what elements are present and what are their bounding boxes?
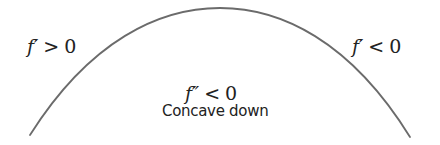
right-derivative-label: f′<0 <box>352 37 401 56</box>
left-relation: > <box>38 35 64 57</box>
concavity-caption: Concave down <box>162 104 268 119</box>
center-func: f″ <box>185 82 199 104</box>
right-value: 0 <box>389 35 401 57</box>
concave-down-curve <box>0 0 440 145</box>
center-value: 0 <box>225 82 237 104</box>
center-relation: < <box>199 82 225 104</box>
right-func: f′ <box>352 35 363 57</box>
left-value: 0 <box>64 35 76 57</box>
right-relation: < <box>363 35 389 57</box>
left-func: f′ <box>27 35 38 57</box>
second-derivative-label: f″<0 <box>185 84 237 103</box>
left-derivative-label: f′>0 <box>27 37 76 56</box>
concavity-diagram: f′>0 f′<0 f″<0 Concave down <box>0 0 440 145</box>
